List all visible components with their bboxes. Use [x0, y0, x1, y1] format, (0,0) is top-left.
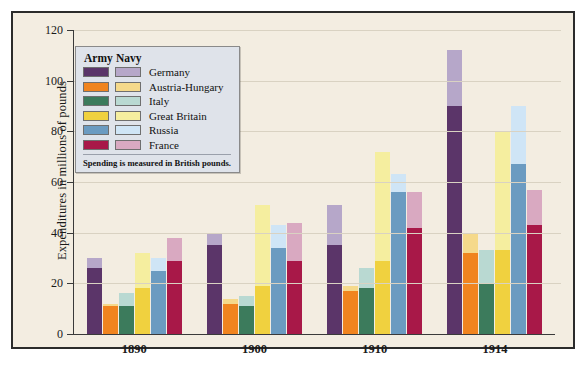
y-axis-tick: [67, 81, 74, 82]
chart-legend: Army Navy GermanyAustria-HungaryItalyGre…: [75, 46, 240, 173]
bar-segment-navy: [119, 293, 134, 306]
bar-segment-army: [287, 261, 302, 334]
legend-swatch-navy: [115, 111, 141, 121]
bar-segment-navy: [447, 50, 462, 106]
chart-canvas: Expenditures in millions of pounds 18901…: [13, 13, 573, 347]
bar-segment-army: [495, 250, 510, 334]
bar-segment-army: [87, 268, 102, 334]
bar-segment-navy: [239, 296, 254, 306]
bar-germany-1910[interactable]: [327, 205, 342, 334]
y-axis-tick: [67, 283, 74, 284]
bar-segment-army: [527, 225, 542, 334]
legend-swatch-navy: [115, 125, 141, 135]
y-gridline: [74, 283, 561, 284]
y-axis-tick-label: 40: [51, 225, 63, 240]
legend-note: Spending is measured in British pounds.: [83, 154, 231, 168]
bar-segment-army: [375, 261, 390, 334]
bar-segment-army: [255, 286, 270, 334]
legend-swatch-navy: [115, 96, 141, 106]
bar-segment-army: [271, 248, 286, 334]
bar-italy-1900[interactable]: [239, 296, 254, 334]
bar-great-britain-1910[interactable]: [375, 152, 390, 334]
bar-segment-army: [207, 245, 222, 334]
x-axis-tick-label: 1900: [194, 334, 314, 357]
bar-russia-1890[interactable]: [151, 258, 166, 334]
bar-segment-navy: [511, 106, 526, 164]
y-axis-tick: [67, 334, 74, 335]
bar-italy-1890[interactable]: [119, 293, 134, 334]
y-axis-tick-label: 120: [45, 23, 63, 38]
legend-label: Germany: [149, 66, 190, 78]
legend-swatch-army: [83, 67, 109, 77]
bar-segment-army: [359, 288, 374, 334]
y-axis-tick: [67, 182, 74, 183]
x-axis-tick-label: 1914: [435, 334, 555, 357]
bar-segment-navy: [375, 152, 390, 261]
bar-segment-army: [463, 253, 478, 334]
legend-swatch-navy: [115, 67, 141, 77]
bar-austria-hungary-1900[interactable]: [223, 299, 238, 334]
bar-segment-army: [103, 306, 118, 334]
legend-item-italy[interactable]: Italy: [83, 95, 231, 107]
y-axis-tick-label: 60: [51, 175, 63, 190]
bar-segment-navy: [151, 258, 166, 271]
legend-item-germany[interactable]: Germany: [83, 66, 231, 78]
y-axis-tick: [67, 131, 74, 132]
x-axis-tick-label: 1890: [74, 334, 194, 357]
legend-swatch-army: [83, 82, 109, 92]
bar-segment-navy: [287, 223, 302, 261]
bar-segment-navy: [407, 192, 422, 227]
y-axis-tick-label: 80: [51, 124, 63, 139]
bar-great-britain-1900[interactable]: [255, 205, 270, 334]
legend-item-austria-hungary[interactable]: Austria-Hungary: [83, 81, 231, 93]
bar-segment-navy: [359, 268, 374, 288]
bar-italy-1910[interactable]: [359, 268, 374, 334]
legend-swatch-navy: [115, 82, 141, 92]
bar-germany-1890[interactable]: [87, 258, 102, 334]
bar-segment-army: [479, 283, 494, 334]
bar-russia-1900[interactable]: [271, 225, 286, 334]
bar-france-1900[interactable]: [287, 223, 302, 334]
bar-segment-navy: [167, 238, 182, 261]
bar-segment-army: [239, 306, 254, 334]
legend-item-russia[interactable]: Russia: [83, 124, 231, 136]
y-gridline: [74, 30, 561, 31]
bar-france-1890[interactable]: [167, 238, 182, 334]
legend-label: France: [149, 139, 179, 151]
bar-segment-army: [447, 106, 462, 334]
bar-segment-navy: [463, 233, 478, 253]
y-axis-tick-label: 0: [57, 327, 63, 342]
legend-swatch-army: [83, 111, 109, 121]
bar-france-1914[interactable]: [527, 190, 542, 334]
bar-russia-1914[interactable]: [511, 106, 526, 334]
bar-segment-navy: [255, 205, 270, 286]
legend-header: Army Navy: [84, 52, 231, 64]
bar-segment-army: [343, 291, 358, 334]
chart-plate: Expenditures in millions of pounds 18901…: [11, 11, 575, 349]
legend-swatch-army: [83, 96, 109, 106]
legend-label: Great Britain: [149, 110, 207, 122]
legend-item-france[interactable]: France: [83, 139, 231, 151]
bar-italy-1914[interactable]: [479, 250, 494, 334]
x-axis-tick-label: 1910: [315, 334, 435, 357]
bar-russia-1910[interactable]: [391, 174, 406, 334]
bar-segment-navy: [327, 205, 342, 246]
legend-swatch-army: [83, 140, 109, 150]
legend-item-great-britain[interactable]: Great Britain: [83, 110, 231, 122]
bar-germany-1914[interactable]: [447, 50, 462, 334]
legend-label: Austria-Hungary: [149, 81, 224, 93]
legend-swatch-navy: [115, 140, 141, 150]
bar-segment-navy: [207, 233, 222, 246]
legend-header-navy: Navy: [116, 52, 142, 64]
bar-austria-hungary-1890[interactable]: [103, 304, 118, 334]
bar-austria-hungary-1910[interactable]: [343, 286, 358, 334]
bar-france-1910[interactable]: [407, 192, 422, 334]
bar-segment-army: [407, 228, 422, 334]
bar-great-britain-1890[interactable]: [135, 253, 150, 334]
bar-segment-navy: [271, 225, 286, 248]
y-axis-tick-label: 20: [51, 276, 63, 291]
bar-segment-army: [391, 192, 406, 334]
bar-segment-army: [167, 261, 182, 334]
bar-segment-navy: [479, 250, 494, 283]
legend-header-army: Army: [84, 52, 110, 64]
